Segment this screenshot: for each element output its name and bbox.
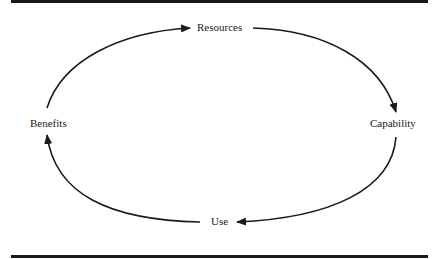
bottom-rule [11, 255, 428, 258]
edge-benefits-to-resources [47, 28, 190, 108]
edge-use-to-benefits [47, 135, 200, 222]
node-capability: Capability [370, 118, 416, 129]
node-resources: Resources [197, 22, 242, 33]
edge-capability-to-use [237, 137, 396, 222]
node-use: Use [211, 216, 228, 227]
edge-resources-to-capability [253, 28, 396, 112]
node-benefits: Benefits [30, 118, 67, 129]
